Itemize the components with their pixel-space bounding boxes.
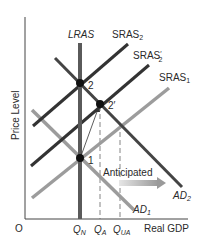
point-1-label: 1 xyxy=(88,155,94,166)
origin-label: O xyxy=(15,223,23,234)
ad1-label: AD1 xyxy=(132,204,151,216)
x-axis-label: Real GDP xyxy=(144,223,189,234)
point-1 xyxy=(76,154,84,162)
ad2-label: AD2 xyxy=(172,190,191,202)
point-2 xyxy=(76,79,84,87)
qua-tick-label: QUA xyxy=(113,224,131,236)
lras-label: LRAS xyxy=(68,29,94,40)
ad-as-diagram: LRAS SRAS2 SRAS′2 SRAS1 AD1 AD2 2 2′ 1 A… xyxy=(0,0,202,248)
anticipated-arrow-body xyxy=(119,180,158,186)
point-2-prime-label: 2′ xyxy=(108,100,116,111)
qa-tick-label: QA xyxy=(94,224,107,236)
sras1-label: SRAS1 xyxy=(159,72,190,84)
point-2-label: 2 xyxy=(88,80,94,91)
y-axis-label: Price Level xyxy=(10,91,21,140)
point-2-prime xyxy=(96,100,104,108)
sras2-prime-label: SRAS′2 xyxy=(133,50,163,63)
sras2-label: SRAS2 xyxy=(112,29,143,41)
anticipated-arrow-head xyxy=(157,177,166,189)
qn-tick-label: QN xyxy=(73,224,87,236)
anticipated-label: Anticipated xyxy=(103,167,152,178)
